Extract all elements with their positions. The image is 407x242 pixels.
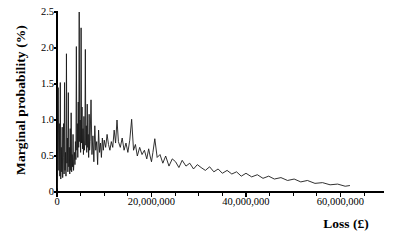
data-series xyxy=(57,12,349,188)
x-axis-title: Loss (£) xyxy=(296,216,396,232)
axes xyxy=(54,11,385,197)
chart-canvas xyxy=(0,0,407,242)
series-line-0 xyxy=(57,12,349,188)
chart-figure: Marginal probability (%) 00.51.01.52.02.… xyxy=(0,0,407,242)
